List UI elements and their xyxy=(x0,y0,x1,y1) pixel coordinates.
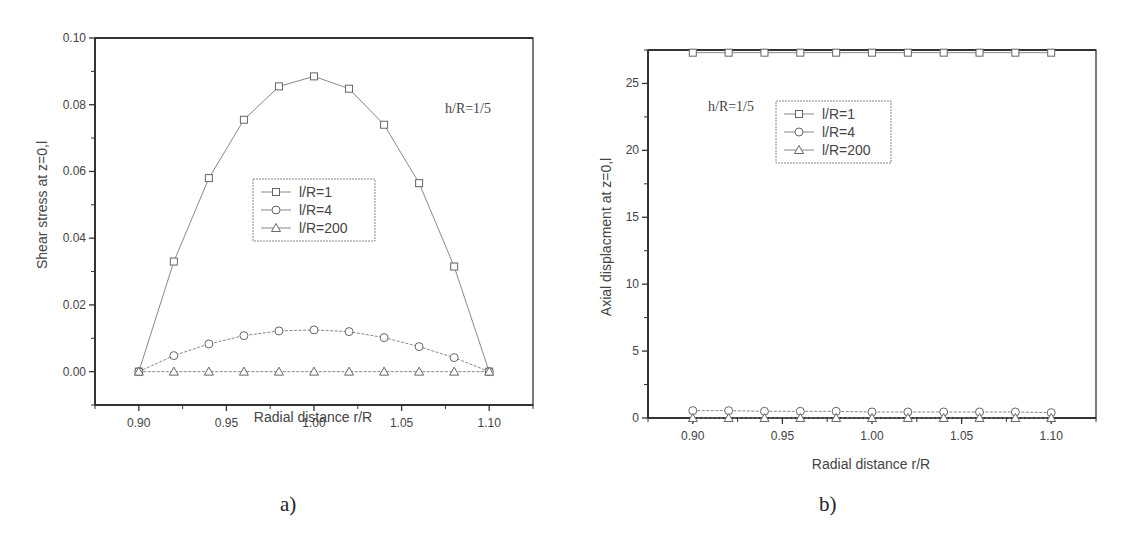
x-tick-label: 1.00 xyxy=(860,429,884,443)
square-marker-icon xyxy=(761,49,768,56)
square-marker-icon xyxy=(797,49,804,56)
square-marker-icon xyxy=(311,73,318,80)
chart-a-xlabel: Radial distance r/R xyxy=(254,409,372,425)
square-marker-icon xyxy=(275,83,282,90)
square-marker-icon xyxy=(833,49,840,56)
x-tick-label: 1.10 xyxy=(1040,429,1064,443)
square-marker-icon xyxy=(416,180,423,187)
circle-marker-icon xyxy=(450,354,458,362)
circle-marker-icon xyxy=(415,343,423,351)
x-tick-label: 1.05 xyxy=(390,416,414,430)
y-tick-label: 0.08 xyxy=(63,98,87,112)
square-marker-icon xyxy=(451,263,458,270)
square-marker-icon xyxy=(346,85,353,92)
legend-entry-label: l/R=200 xyxy=(822,142,871,158)
circle-marker-icon xyxy=(170,352,178,360)
square-marker-icon xyxy=(904,49,911,56)
chart-a-annotation: h/R=1/5 xyxy=(445,101,491,116)
chart-a-ylabel: Shear stress at z=0,l xyxy=(34,141,50,269)
chart-a-shear-stress: 0.900.951.001.051.100.000.020.040.060.08… xyxy=(0,0,560,470)
legend-entry-label: l/R=1 xyxy=(299,184,332,200)
square-marker-icon xyxy=(273,189,280,196)
square-marker-icon xyxy=(240,116,247,123)
y-tick-label: 0 xyxy=(632,411,639,425)
y-tick-label: 25 xyxy=(626,76,640,90)
square-marker-icon xyxy=(689,49,696,56)
y-tick-label: 0.06 xyxy=(63,164,87,178)
y-tick-label: 0.02 xyxy=(63,298,87,312)
square-marker-icon xyxy=(976,49,983,56)
square-marker-icon xyxy=(796,111,803,118)
circle-marker-icon xyxy=(345,328,353,336)
square-marker-icon xyxy=(869,49,876,56)
x-tick-label: 1.10 xyxy=(478,416,502,430)
circle-marker-icon xyxy=(272,206,280,214)
y-tick-label: 15 xyxy=(626,210,640,224)
series-line-circle xyxy=(139,330,489,372)
caption-b: b) xyxy=(819,492,837,517)
legend-entry-label: l/R=4 xyxy=(299,202,332,218)
square-marker-icon xyxy=(381,121,388,128)
chart-b-xlabel: Radial distance r/R xyxy=(812,456,930,470)
square-marker-icon xyxy=(940,49,947,56)
chart-b-axial-displacement: 0.900.951.001.051.100510152025 l/R=1l/R=… xyxy=(560,0,1127,470)
y-tick-label: 10 xyxy=(626,277,640,291)
circle-marker-icon xyxy=(205,340,213,348)
chart-b-annotation: h/R=1/5 xyxy=(708,99,754,114)
legend-entry-label: l/R=4 xyxy=(822,124,855,140)
circle-marker-icon xyxy=(275,327,283,335)
y-tick-label: 5 xyxy=(632,344,639,358)
square-marker-icon xyxy=(170,258,177,265)
x-tick-label: 0.90 xyxy=(681,429,705,443)
circle-marker-icon xyxy=(240,332,248,340)
circle-marker-icon xyxy=(310,326,318,334)
y-tick-label: 0.00 xyxy=(63,365,87,379)
y-tick-label: 0.10 xyxy=(63,31,87,45)
circle-marker-icon xyxy=(380,334,388,342)
circle-marker-icon xyxy=(795,128,803,136)
y-tick-label: 0.04 xyxy=(63,231,87,245)
x-tick-label: 0.90 xyxy=(127,416,151,430)
square-marker-icon xyxy=(725,49,732,56)
legend-entry-label: l/R=1 xyxy=(822,106,855,122)
caption-a: a) xyxy=(280,492,296,517)
x-tick-label: 0.95 xyxy=(771,429,795,443)
square-marker-icon xyxy=(1048,49,1055,56)
legend-entry-label: l/R=200 xyxy=(299,220,348,236)
square-marker-icon xyxy=(1012,49,1019,56)
chart-b-ylabel: Axial displacment at z=0,l xyxy=(598,158,614,316)
y-tick-label: 20 xyxy=(626,143,640,157)
x-tick-label: 0.95 xyxy=(215,416,239,430)
x-tick-label: 1.05 xyxy=(950,429,974,443)
chart-a-legend: l/R=1l/R=4l/R=200 xyxy=(253,179,375,241)
chart-b-legend: l/R=1l/R=4l/R=200 xyxy=(776,101,891,163)
square-marker-icon xyxy=(205,175,212,182)
